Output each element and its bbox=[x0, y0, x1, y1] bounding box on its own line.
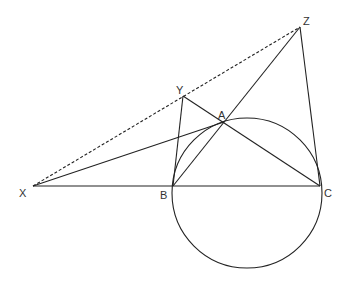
label-B: B bbox=[160, 189, 167, 201]
segment-BZ bbox=[173, 27, 300, 186]
label-C: C bbox=[324, 187, 332, 199]
segment-XA bbox=[33, 122, 224, 186]
segment-XZ-dashed bbox=[33, 27, 300, 186]
label-A: A bbox=[218, 109, 226, 121]
segment-YC bbox=[183, 96, 320, 186]
geometry-diagram: X B C A Y Z bbox=[0, 0, 350, 288]
label-X: X bbox=[19, 187, 27, 199]
label-Y: Y bbox=[176, 84, 184, 96]
segment-YB bbox=[173, 96, 183, 186]
label-Z: Z bbox=[303, 15, 310, 27]
segment-ZC bbox=[300, 27, 320, 186]
circumcircle bbox=[172, 118, 322, 268]
